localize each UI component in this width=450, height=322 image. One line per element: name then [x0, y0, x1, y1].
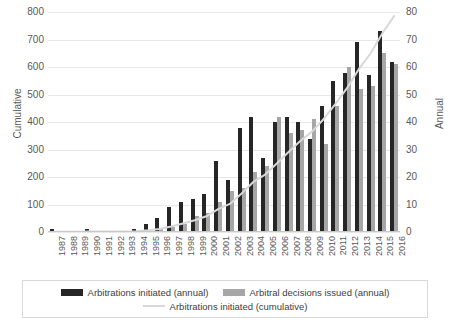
y-axis-right-tick-label: 20	[406, 172, 436, 182]
bar-group	[177, 12, 189, 232]
x-axis-tick: 1992	[107, 234, 119, 274]
x-axis-tick: 2002	[224, 234, 236, 274]
x-axis-tick: 1988	[60, 234, 72, 274]
plot-area	[48, 12, 400, 232]
legend-line-icon	[143, 305, 165, 307]
legend-row-secondary: Arbitrations initiated (cumulative)	[143, 301, 308, 312]
y-axis-left-tick-label: 300	[14, 145, 44, 155]
bar-group	[118, 12, 130, 232]
y-axis-right-tick-label: 50	[406, 90, 436, 100]
bar-arbitral-decisions-issued	[382, 53, 386, 232]
x-axis-tick: 2011	[330, 234, 342, 274]
y-axis-right-tick-label: 10	[406, 200, 436, 210]
x-axis-tick: 1989	[71, 234, 83, 274]
x-axis-tick: 2005	[259, 234, 271, 274]
y-axis-left-tick-label: 700	[14, 35, 44, 45]
legend-item-label: Arbitrations initiated (cumulative)	[170, 301, 308, 312]
bar-group	[330, 12, 342, 232]
x-axis-tick: 2007	[283, 234, 295, 274]
bar-group	[236, 12, 248, 232]
legend-item-arbitrations-initiated-cumulative[interactable]: Arbitrations initiated (cumulative)	[143, 301, 308, 312]
bar-group	[247, 12, 259, 232]
y-axis-left-tick-label: 400	[14, 117, 44, 127]
legend-item-label: Arbitrations initiated (annual)	[88, 287, 209, 298]
bar-group	[154, 12, 166, 232]
x-axis-tick: 2008	[294, 234, 306, 274]
x-axis-tick: 2009	[306, 234, 318, 274]
x-axis-tick: 1990	[83, 234, 95, 274]
bar-arbitral-decisions-issued	[312, 119, 316, 232]
x-axis-tick: 2015	[377, 234, 389, 274]
bar-group	[224, 12, 236, 232]
bar-group	[165, 12, 177, 232]
bar-arbitral-decisions-issued	[394, 64, 398, 232]
bar-arbitral-decisions-issued	[206, 213, 210, 232]
bar-arbitral-decisions-issued	[277, 117, 281, 233]
x-axis-tick: 1996	[154, 234, 166, 274]
y-axis-left-ticks: 0100200300400500600700800	[14, 0, 44, 240]
bar-group	[318, 12, 330, 232]
y-axis-right-tick-label: 80	[406, 7, 436, 17]
y-axis-left-tick-label: 0	[14, 227, 44, 237]
y-axis-right-tick-label: 0	[406, 227, 436, 237]
x-axis-tick-label: 2016	[398, 236, 407, 256]
bar-arbitral-decisions-issued	[230, 191, 234, 232]
y-axis-left-tick-label: 500	[14, 90, 44, 100]
gridline	[48, 232, 400, 233]
y-axis-right-tick-label: 40	[406, 117, 436, 127]
bar-arbitral-decisions-issued	[195, 216, 199, 233]
bar-group	[353, 12, 365, 232]
x-axis-tick: 2001	[212, 234, 224, 274]
y-axis-left-tick-label: 200	[14, 172, 44, 182]
bar-group	[60, 12, 72, 232]
legend-row-primary: Arbitrations initiated (annual) Arbitral…	[61, 287, 390, 298]
y-axis-right-tick-label: 60	[406, 62, 436, 72]
legend-item-arbitral-decisions-issued-annual[interactable]: Arbitral decisions issued (annual)	[223, 287, 390, 298]
bar-group	[95, 12, 107, 232]
bar-series-layer	[48, 12, 400, 232]
bar-arbitral-decisions-issued	[300, 130, 304, 232]
bar-group	[71, 12, 83, 232]
bar-group	[48, 12, 60, 232]
bar-arbitral-decisions-issued	[371, 86, 375, 232]
legend-swatch-icon	[61, 289, 83, 296]
bar-arbitral-decisions-issued	[335, 106, 339, 233]
x-axis-line	[48, 231, 400, 232]
x-axis-tick: 2012	[341, 234, 353, 274]
bar-group	[142, 12, 154, 232]
chart-legend: Arbitrations initiated (annual) Arbitral…	[22, 280, 428, 318]
bar-group	[294, 12, 306, 232]
y-axis-left-tick-label: 600	[14, 62, 44, 72]
x-axis-tick: 1997	[165, 234, 177, 274]
x-axis-tick: 2004	[247, 234, 259, 274]
bar-group	[365, 12, 377, 232]
y-axis-left-tick-label: 800	[14, 7, 44, 17]
bar-arbitral-decisions-issued	[289, 133, 293, 232]
bar-group	[83, 12, 95, 232]
x-axis-ticks: 1987198819891990199119921993199419951996…	[48, 234, 400, 274]
bar-group	[107, 12, 119, 232]
legend-item-arbitrations-initiated-annual[interactable]: Arbitrations initiated (annual)	[61, 287, 209, 298]
bar-arbitral-decisions-issued	[265, 166, 269, 232]
chart-container: Cumulative Annual 0100200300400500600700…	[0, 0, 450, 322]
bar-group	[201, 12, 213, 232]
bar-group	[377, 12, 389, 232]
x-axis-tick: 1991	[95, 234, 107, 274]
bar-group	[306, 12, 318, 232]
bar-group	[271, 12, 283, 232]
legend-swatch-icon	[223, 289, 245, 296]
bar-arbitral-decisions-issued	[253, 172, 257, 233]
bar-group	[189, 12, 201, 232]
bar-group	[259, 12, 271, 232]
x-axis-tick: 2014	[365, 234, 377, 274]
x-axis-tick: 1993	[118, 234, 130, 274]
bar-arbitral-decisions-issued	[218, 202, 222, 232]
x-axis-tick: 2003	[236, 234, 248, 274]
x-axis-tick: 2000	[201, 234, 213, 274]
bar-group	[388, 12, 400, 232]
bar-group	[130, 12, 142, 232]
x-axis-tick: 1998	[177, 234, 189, 274]
bar-group	[212, 12, 224, 232]
bar-group	[283, 12, 295, 232]
bar-arbitral-decisions-issued	[324, 144, 328, 232]
